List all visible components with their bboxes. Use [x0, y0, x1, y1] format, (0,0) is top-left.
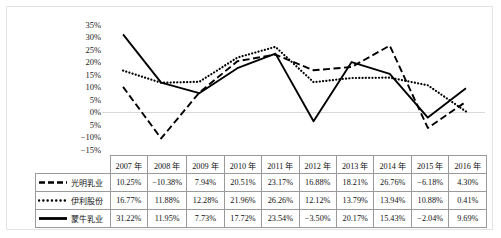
column-header-0: 2007 年 [110, 156, 147, 174]
cell-r1-c8: 10.88% [411, 192, 448, 210]
legend-cell-伊利股份: 伊利股份 [36, 192, 111, 210]
cell-r2-c3: 17.72% [224, 210, 261, 228]
column-header-7: 2014 年 [374, 156, 411, 174]
cell-r1-c7: 13.94% [374, 192, 411, 210]
cell-r0-c1: −10.38% [148, 174, 187, 192]
cell-r0-c3: 20.51% [224, 174, 261, 192]
cell-r2-c9: 9.69% [449, 210, 487, 228]
column-header-6: 2013 年 [336, 156, 373, 174]
cell-r1-c9: 0.41% [449, 192, 487, 210]
cell-r0-c5: 16.88% [299, 174, 336, 192]
cell-r2-c1: 11.95% [148, 210, 187, 228]
table-row: 光明乳业10.25%−10.38%7.94%20.51%23.17%16.88%… [36, 174, 487, 192]
table-body: 光明乳业10.25%−10.38%7.94%20.51%23.17%16.88%… [36, 174, 487, 228]
data-table: 2007 年2008 年2009 年2010 年2011 年2012 年2013… [35, 155, 487, 228]
series-line-光明乳业 [123, 46, 466, 139]
cell-r2-c8: −2.04% [411, 210, 448, 228]
cell-r1-c1: 11.88% [148, 192, 187, 210]
series-name-label: 蒙牛乳业 [71, 213, 103, 224]
cell-r0-c9: 4.30% [449, 174, 487, 192]
cell-r2-c6: 20.17% [336, 210, 373, 228]
table-corner-cell [36, 156, 111, 174]
cell-r0-c4: 23.17% [262, 174, 299, 192]
cell-r0-c2: 7.94% [187, 174, 224, 192]
cell-r2-c4: 23.54% [262, 210, 299, 228]
dotted-line-marker [38, 196, 68, 205]
column-header-3: 2010 年 [224, 156, 261, 174]
cell-r1-c0: 16.77% [110, 192, 147, 210]
cell-r0-c0: 10.25% [110, 174, 147, 192]
dashed-line-marker [38, 178, 68, 187]
column-header-5: 2012 年 [299, 156, 336, 174]
legend-cell-光明乳业: 光明乳业 [36, 174, 111, 192]
series-name-label: 伊利股份 [71, 195, 103, 206]
cell-r0-c8: −6.18% [411, 174, 448, 192]
figure-frame: 35%30%25%20%15%10%5%0%5%−10%−15% 2007 年2… [6, 6, 493, 230]
cell-r1-c6: 13.79% [336, 192, 373, 210]
cell-r1-c3: 21.96% [224, 192, 261, 210]
cell-r1-c4: 26.26% [262, 192, 299, 210]
cell-r1-c2: 12.28% [187, 192, 224, 210]
chart-plot-svg [7, 7, 501, 157]
column-header-8: 2015 年 [411, 156, 448, 174]
column-header-9: 2016 年 [449, 156, 487, 174]
table-header-row: 2007 年2008 年2009 年2010 年2011 年2012 年2013… [36, 156, 487, 174]
cell-r2-c5: −3.50% [299, 210, 336, 228]
column-header-4: 2011 年 [262, 156, 299, 174]
legend-cell-蒙牛乳业: 蒙牛乳业 [36, 210, 111, 228]
table-row: 蒙牛乳业31.22%11.95%7.73%17.72%23.54%−3.50%2… [36, 210, 487, 228]
series-line-蒙牛乳业 [123, 34, 466, 121]
solid-line-marker [38, 214, 68, 223]
cell-r0-c6: 18.21% [336, 174, 373, 192]
cell-r2-c2: 7.73% [187, 210, 224, 228]
series-name-label: 光明乳业 [71, 177, 103, 188]
cell-r2-c0: 31.22% [110, 210, 147, 228]
cell-r0-c7: 26.76% [374, 174, 411, 192]
data-table-wrapper: 2007 年2008 年2009 年2010 年2011 年2012 年2013… [35, 155, 487, 228]
cell-r1-c5: 12.12% [299, 192, 336, 210]
table-row: 伊利股份16.77%11.88%12.28%21.96%26.26%12.12%… [36, 192, 487, 210]
cell-r2-c7: 15.43% [374, 210, 411, 228]
column-header-1: 2008 年 [148, 156, 187, 174]
line-chart: 35%30%25%20%15%10%5%0%5%−10%−15% [7, 7, 501, 157]
column-header-2: 2009 年 [187, 156, 224, 174]
